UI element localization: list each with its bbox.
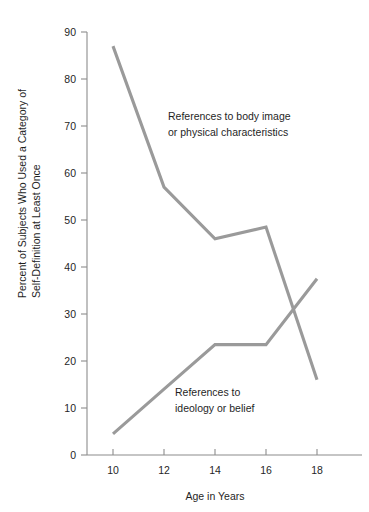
y-tick-label-60: 60 — [64, 167, 76, 179]
annotation-body-image-line-1: References to body image — [168, 110, 291, 122]
y-tick-label-50: 50 — [64, 214, 76, 226]
y-tick-label-90: 90 — [64, 26, 76, 38]
line-chart: 90 80 70 60 50 40 30 20 10 0 10 12 14 16… — [0, 0, 369, 512]
x-tick-label-12: 12 — [158, 464, 170, 476]
y-tick-label-70: 70 — [64, 120, 76, 132]
y-tick-label-80: 80 — [64, 73, 76, 85]
x-tick-label-10: 10 — [107, 464, 119, 476]
y-tick-label-30: 30 — [64, 308, 76, 320]
y-axis-title-line-1: Percent of Subjects Who Used a Category … — [16, 89, 28, 298]
y-axis-ticks — [81, 32, 87, 455]
y-tick-label-40: 40 — [64, 261, 76, 273]
x-tick-label-16: 16 — [260, 464, 272, 476]
x-tick-label-14: 14 — [209, 464, 221, 476]
y-axis-tick-labels: 90 80 70 60 50 40 30 20 10 0 — [64, 26, 76, 461]
y-tick-label-20: 20 — [64, 355, 76, 367]
x-axis-title: Age in Years — [186, 490, 245, 502]
x-axis-tick-labels: 10 12 14 16 18 — [107, 464, 323, 476]
chart-figure: 90 80 70 60 50 40 30 20 10 0 10 12 14 16… — [0, 0, 369, 512]
annotation-ideology-line-1: References to — [175, 386, 241, 398]
x-tick-label-18: 18 — [311, 464, 323, 476]
x-axis-ticks — [113, 449, 317, 455]
series-line-body-image — [113, 46, 317, 380]
annotation-ideology-line-2: ideology or belief — [175, 402, 254, 414]
y-axis-title-line-2: Self-Definition at Least Once — [30, 164, 42, 298]
y-tick-label-0: 0 — [70, 449, 76, 461]
annotation-body-image-line-2: or physical characteristics — [168, 126, 288, 138]
y-tick-label-10: 10 — [64, 402, 76, 414]
